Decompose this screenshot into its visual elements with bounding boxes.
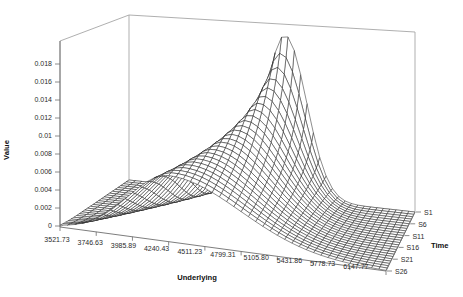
plot-canvas: 00.0020.0040.0060.0080.010.0120.0140.016…	[0, 0, 463, 297]
value-tick-label: 0	[48, 222, 52, 229]
value-axis-title: Value	[2, 140, 11, 160]
time-tick-label: S26	[395, 268, 408, 275]
value-tick-label: 0.006	[34, 168, 52, 175]
time-axis-title: Time	[431, 241, 449, 250]
x-tick-label: 3746.63	[78, 239, 103, 246]
x-tick-label: 5105.80	[244, 254, 269, 261]
x-tick-label: 6147.77	[343, 263, 368, 270]
value-tick-label: 0.002	[34, 204, 52, 211]
time-tick-label: S21	[401, 256, 414, 263]
box-edge	[60, 15, 129, 41]
value-tick-label: 0.01	[38, 132, 52, 139]
time-tick-label: S11	[412, 233, 424, 240]
time-tick-label: S1	[424, 209, 433, 216]
value-tick-label: 0.008	[34, 150, 52, 157]
surface-mesh	[60, 37, 415, 270]
x-tick-label: 4240.43	[144, 245, 169, 252]
value-tick-label: 0.014	[34, 96, 52, 103]
box-edge	[129, 15, 415, 32]
x-tick-label: 3985.89	[111, 242, 136, 249]
time-tick-label: S6	[418, 221, 427, 228]
surface-chart: 00.0020.0040.0060.0080.010.0120.0140.016…	[0, 0, 463, 297]
value-tick-label: 0.018	[34, 60, 52, 67]
x-tick-label: 5778.73	[310, 260, 335, 267]
value-tick-label: 0.012	[34, 114, 52, 121]
time-tick-label: S16	[407, 244, 420, 251]
value-tick-label: 0.004	[34, 186, 52, 193]
value-tick-label: 0.016	[34, 78, 52, 85]
x-tick-label: 4511.23	[177, 248, 202, 255]
x-tick-label: 5431.86	[277, 257, 302, 264]
underlying-axis-title: Underlying	[177, 273, 217, 282]
x-tick-label: 4799.31	[210, 251, 235, 258]
x-tick-label: 3521.73	[44, 236, 69, 243]
